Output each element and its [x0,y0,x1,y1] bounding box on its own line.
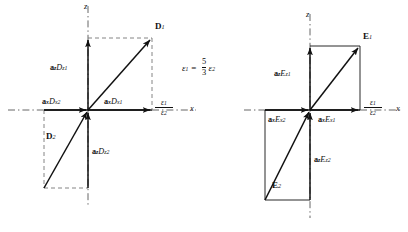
vector-E1 [310,48,358,110]
relation-fraction: 5 3 [202,58,206,78]
component-label-az-Dz1: azDz1 [50,64,67,72]
vector-D2 [44,112,87,188]
right-z-axis-label: z [306,10,309,19]
component-label-ax-Ex2: axEx2 [268,116,286,124]
vector-label-D1: D1 [155,22,165,31]
left-z-axis-label: z [84,2,87,11]
vector-decomposition-figure: z x ε1 ε2 D1 D2 azDz1 axDx1 axDx2 azDz2 … [0,0,408,232]
component-label-ax-Ex1: axEx1 [318,116,336,124]
figure-vector-graphics [0,0,408,232]
vector-label-E1: E1 [363,32,372,41]
right-x-axis-label: x [396,104,400,113]
left-interface-epsilon-ratio: ε1 ε2 [155,99,173,117]
component-label-az-Ez1: azEz1 [274,70,291,78]
relation-equals: = [191,63,196,73]
vector-label-D2: D2 [46,132,56,141]
component-label-ax-Dx1: axDx1 [104,98,122,106]
right-interface-epsilon-ratio: ε1 ε2 [364,99,382,117]
component-label-az-Dz2: azDz2 [92,148,109,156]
permittivity-relation: ε1 = 5 3 ε2 [182,58,215,78]
left-x-axis-label: x [190,104,194,113]
component-label-az-Ez2: azEz2 [314,156,331,164]
vector-label-E2: E2 [272,181,281,190]
component-label-ax-Dx2: axDx2 [42,98,60,106]
